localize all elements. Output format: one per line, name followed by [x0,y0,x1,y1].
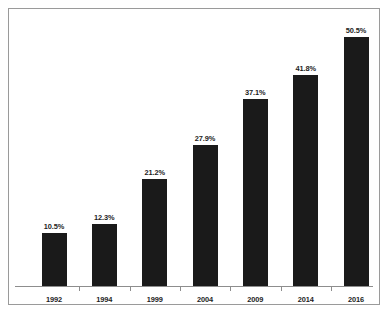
bar-value-label: 10.5% [44,223,64,230]
bar-group-2009: 37.1% [231,27,279,286]
bar-group-2014: 41.8% [282,27,330,286]
x-axis-label-2004: 2004 [181,296,229,303]
x-axis-line [15,286,373,287]
x-axis-label-1994: 1994 [80,296,128,303]
bar-value-label: 27.9% [195,135,215,142]
bar-value-label: 21.2% [144,169,164,176]
bar-rect [142,179,167,286]
x-axis-label-2014: 2014 [282,296,330,303]
bar-rect [243,99,268,286]
x-axis-label-1999: 1999 [131,296,179,303]
bar-value-label: 41.8% [295,65,315,72]
bar-value-label: 37.1% [245,89,265,96]
bar-group-1994: 12.3% [80,27,128,286]
x-axis-tick [230,287,231,291]
x-axis-tick [180,287,181,291]
bar-value-label: 50.5% [346,27,366,34]
bar-rect [92,224,117,286]
x-axis-tick [130,287,131,291]
figure-container: 10.5%12.3%21.2%27.9%37.1%41.8%50.5% 1992… [0,0,390,321]
plot-area: 10.5%12.3%21.2%27.9%37.1%41.8%50.5% 1992… [9,9,379,304]
x-axis-tick [331,287,332,291]
bar-group-2004: 27.9% [181,27,229,286]
bar-group-1999: 21.2% [131,27,179,286]
x-axis-label-2009: 2009 [231,296,279,303]
x-axis-label-1992: 1992 [30,296,78,303]
bar-rect [344,37,369,286]
bar-group-1992: 10.5% [30,27,78,286]
x-axis-tick [79,287,80,291]
bar-rect [293,75,318,286]
bar-series: 10.5%12.3%21.2%27.9%37.1%41.8%50.5% [9,9,379,304]
bar-group-2016: 50.5% [332,27,380,286]
bar-rect [193,145,218,286]
x-axis-label-2016: 2016 [332,296,380,303]
clipped-caption-text [14,316,344,321]
x-axis-tick [281,287,282,291]
bar-value-label: 12.3% [94,214,114,221]
bar-rect [42,233,67,286]
